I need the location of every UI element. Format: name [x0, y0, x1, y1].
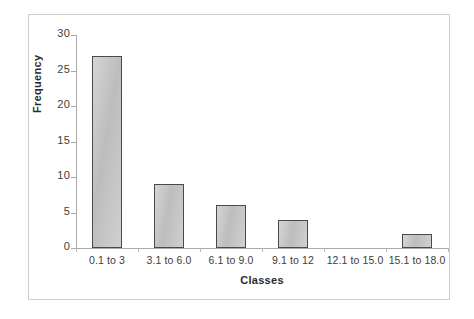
x-axis-tick-mark: [200, 248, 201, 252]
bar: [216, 205, 246, 248]
y-axis-tick-label: 0: [64, 240, 70, 252]
x-axis-title: Classes: [76, 274, 448, 286]
bar: [154, 184, 184, 248]
y-axis-tick-label: 5: [64, 205, 70, 217]
plot-area: [76, 35, 448, 248]
y-axis-tick-label: 15: [57, 134, 70, 146]
x-axis-tick-mark: [386, 248, 387, 252]
bar: [402, 234, 432, 248]
bar: [92, 56, 122, 248]
x-axis-tick-mark: [76, 248, 77, 252]
x-axis-tick-mark: [448, 248, 449, 252]
y-axis-tick-label: 25: [57, 63, 70, 75]
x-axis-tick-mark: [262, 248, 263, 252]
y-axis-tick-label: 30: [57, 27, 70, 39]
y-axis-title: Frequency: [31, 91, 43, 113]
x-axis-tick-mark: [324, 248, 325, 252]
x-axis-tick-mark: [138, 248, 139, 252]
bar: [278, 220, 308, 248]
y-axis-tick-label: 10: [57, 169, 70, 181]
x-axis-tick-label: 15.1 to 18.0: [378, 254, 456, 266]
y-axis-tick-label: 20: [57, 98, 70, 110]
